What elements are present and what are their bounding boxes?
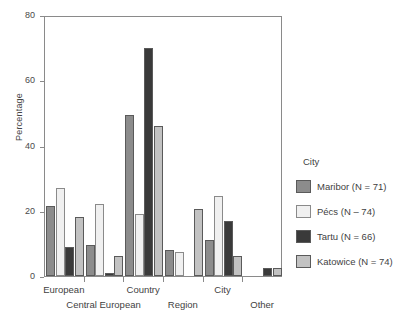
bar <box>75 217 84 276</box>
bar <box>224 221 233 276</box>
y-tick-mark <box>40 16 44 17</box>
bar-group-city <box>205 17 243 276</box>
bar <box>165 250 174 276</box>
legend-item[interactable]: Katowice (N = 74) <box>296 254 404 269</box>
bar <box>46 206 55 276</box>
y-tick-label: 60 <box>25 75 35 85</box>
bar <box>65 247 74 276</box>
legend-item[interactable]: Tartu (N = 66) <box>296 229 404 244</box>
legend: City Maribor (N = 71)Pécs (N – 74)Tartu … <box>296 156 404 279</box>
x-axis-label: Central European <box>66 299 140 310</box>
bar <box>205 240 214 276</box>
y-tick-mark <box>40 147 44 148</box>
legend-swatch <box>296 205 311 218</box>
x-axis-label: Other <box>250 299 274 310</box>
x-tick-mark <box>84 277 85 282</box>
x-tick-mark <box>242 277 243 282</box>
bars-layer <box>45 17 281 276</box>
bar-group-other <box>244 17 282 276</box>
y-axis-title: Percentage <box>14 72 24 162</box>
legend-title: City <box>303 156 404 167</box>
bar <box>86 245 95 276</box>
legend-label: Pécs (N – 74) <box>317 206 375 217</box>
legend-item[interactable]: Maribor (N = 71) <box>296 179 404 194</box>
y-tick-label: 80 <box>25 10 35 20</box>
bar <box>105 273 114 276</box>
bar <box>114 256 123 276</box>
bar-group-central-european <box>86 17 124 276</box>
bar <box>154 126 163 276</box>
bar <box>273 268 282 276</box>
x-tick-mark <box>123 277 124 282</box>
plot-area <box>44 16 282 277</box>
legend-item[interactable]: Pécs (N – 74) <box>296 204 404 219</box>
bar <box>233 256 242 276</box>
legend-label: Tartu (N = 66) <box>317 231 375 242</box>
x-axis-label: Region <box>168 299 198 310</box>
bar <box>95 204 104 276</box>
y-tick-label: 20 <box>25 206 35 216</box>
legend-swatch <box>296 255 311 268</box>
x-tick-mark <box>203 277 204 282</box>
y-tick-mark <box>40 212 44 213</box>
x-tick-mark <box>163 277 164 282</box>
y-tick-mark <box>40 81 44 82</box>
bar-group-european <box>46 17 84 276</box>
y-tick-mark <box>40 277 44 278</box>
legend-label: Maribor (N = 71) <box>317 181 386 192</box>
bar-chart: Percentage 020406080 EuropeanCentral Eur… <box>0 0 404 324</box>
y-tick-label: 0 <box>30 271 35 281</box>
bar <box>144 48 153 276</box>
legend-swatch <box>296 230 311 243</box>
bar-group-country <box>125 17 163 276</box>
x-axis-label: City <box>214 284 230 295</box>
bar <box>175 252 184 276</box>
legend-swatch <box>296 180 311 193</box>
legend-label: Katowice (N = 74) <box>317 256 393 267</box>
legend-items: Maribor (N = 71)Pécs (N – 74)Tartu (N = … <box>296 179 404 269</box>
bar <box>263 268 272 276</box>
bar <box>125 115 134 276</box>
bar-group-region <box>165 17 203 276</box>
y-tick-label: 40 <box>25 141 35 151</box>
bar <box>56 188 65 276</box>
x-axis-label: Country <box>127 284 160 295</box>
bar <box>214 196 223 276</box>
bar <box>135 214 144 276</box>
x-axis-label: European <box>43 284 84 295</box>
bar <box>194 209 203 276</box>
